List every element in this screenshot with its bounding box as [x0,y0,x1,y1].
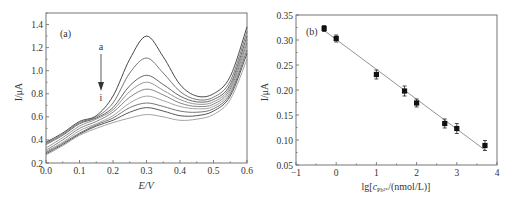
panel-b-y-tick-label: 0.30 [276,36,293,46]
data-marker [414,100,419,105]
curve-e [46,43,247,150]
data-point [334,35,339,42]
data-marker [454,126,459,131]
panel-a-label: (a) [60,28,71,40]
panel-a-x-tick-label: 0.5 [208,166,220,176]
figure: 0.00.10.20.30.40.50.6 0.20.40.60.81.01.2… [0,0,514,203]
panel-a-frame [46,13,247,163]
panel-b-x-tick-label: 4 [495,168,500,178]
data-marker [334,36,339,41]
panel-b-x-tick-label: 3 [454,168,459,178]
panel-a-y-tick-label: 1.4 [31,20,43,30]
data-point [402,86,407,96]
panel-b-y-tick-label: 0.15 [276,111,293,121]
annotation-start-label: a [99,41,104,52]
curve-h [46,53,247,153]
panel-b-y-tick-label: 0.20 [276,86,293,96]
panel-a-y-tick-label: 0.4 [31,135,43,145]
panel-a-x-axis-label: E/V [138,180,156,191]
panel-a-x-tick-label: 0.1 [74,166,86,176]
panel-a-y-tick-label: 0.8 [31,89,43,99]
panel-b-y-tick-label: 0.25 [276,61,293,71]
panel-a-y-tick-label: 1.0 [31,66,43,76]
panel-a-x-tick-label: 0.2 [107,166,119,176]
data-point [442,119,447,128]
panel-b-x-axis-label: lg[cPb²⁺/(nmol/L)] [362,181,431,193]
panel-b-label: (b) [306,26,318,38]
data-marker [402,88,407,93]
data-marker [482,143,487,148]
panel-b-frame [296,15,497,165]
data-point [374,70,379,79]
panel-a-y-tick-label: 0.2 [31,159,43,169]
data-marker [322,26,327,31]
panel-b-x-tick-label: 2 [414,168,419,178]
panel-b-y-tick-label: 0.05 [276,161,293,171]
panel-a-x-tick-label: 0.6 [241,166,253,176]
data-point [322,26,327,32]
panel-a-y-tick-label: 1.2 [31,43,43,53]
curve-d [46,40,247,148]
annotation-end-label: i [100,92,103,103]
panel-b-y-tick-label: 0.10 [276,136,293,146]
data-point [454,124,459,134]
panel-a-y-axis-label: I/μA [13,82,24,101]
panel-b-chart: −101234 0.050.100.150.200.250.300.35 (b)… [259,11,500,194]
panel-b-y-axis-label: I/μA [259,82,270,101]
panel-a-y-tick-label: 0.6 [31,112,43,122]
panel-a-chart: 0.00.10.20.30.40.50.6 0.20.40.60.81.01.2… [13,13,253,191]
annotation-arrow-head [98,82,104,91]
curve-b [46,31,247,143]
panel-b-x-tick-label: 1 [374,168,379,178]
panel-b-x-tick-label: 0 [334,168,339,178]
panel-b-y-tick-label: 0.35 [276,11,293,21]
panel-a-x-tick-label: 0.4 [174,166,186,176]
data-marker [374,72,379,77]
panel-a-x-tick-label: 0.3 [141,166,153,176]
data-marker [442,121,447,126]
